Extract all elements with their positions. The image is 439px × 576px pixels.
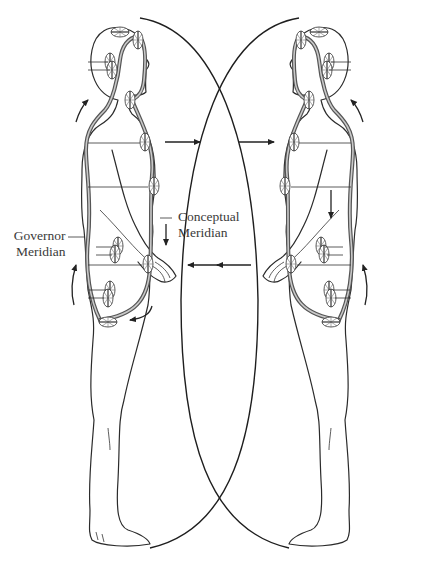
governor-meridian-label: Governor Meridian [10,228,66,260]
meridian-diagram [0,0,439,576]
flow-arrow-up-right [351,100,363,122]
body-outline-left [82,28,156,547]
flow-arrow-up-pelvis-left [72,265,76,305]
crown-chakra-left [111,27,129,37]
flow-arrow-up-pelvis-right [363,265,367,305]
body-outline-right [284,28,358,547]
left-figure [68,18,258,548]
conceptual-meridian-label: Conceptual Meridian [178,209,239,241]
flow-arrow-up-left [76,100,88,122]
aura-boundary-left [140,18,258,548]
aura-boundary-right [181,18,299,548]
